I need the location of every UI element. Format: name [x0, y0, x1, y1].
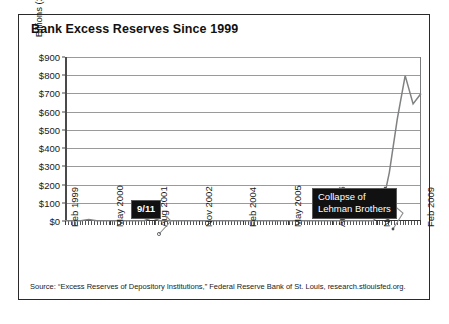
x-axis-minor-tick: [269, 221, 270, 225]
y-axis-tick-mark: [62, 166, 65, 167]
x-axis-minor-tick: [324, 221, 325, 225]
x-axis-minor-tick: [88, 221, 89, 225]
x-axis-minor-tick: [272, 221, 273, 225]
x-axis-minor-tick: [327, 221, 328, 225]
x-axis-minor-tick: [260, 221, 261, 225]
x-axis-minor-tick: [190, 221, 191, 225]
y-axis-tick-label: $500: [39, 124, 60, 135]
x-axis-minor-tick: [417, 221, 418, 225]
x-axis-minor-tick: [368, 221, 369, 225]
y-axis-tick-mark: [62, 202, 65, 203]
x-axis-minor-tick: [82, 221, 83, 225]
x-axis-minor-tick: [263, 221, 264, 225]
x-axis-tick-mark: [65, 221, 66, 225]
x-axis-minor-tick: [240, 221, 241, 225]
x-axis-minor-tick: [350, 221, 351, 225]
x-axis-minor-tick: [94, 221, 95, 225]
annotation-911: 9/11: [131, 200, 161, 219]
x-axis-minor-tick: [283, 221, 284, 225]
x-axis-minor-tick: [132, 221, 133, 225]
x-axis-minor-tick: [347, 221, 348, 225]
x-axis-minor-tick: [187, 221, 188, 225]
x-axis-minor-tick: [394, 221, 395, 225]
y-axis-tick-mark: [62, 129, 65, 130]
x-axis-tick-mark: [199, 221, 200, 225]
x-axis-minor-tick: [400, 221, 401, 225]
x-axis-tick-mark: [110, 221, 111, 225]
x-axis-minor-tick: [275, 221, 276, 225]
y-axis-tick-mark: [62, 57, 65, 58]
x-axis-minor-tick: [219, 221, 220, 225]
y-axis-tick-label: $0: [49, 216, 60, 227]
x-axis-minor-tick: [173, 221, 174, 225]
x-axis-tick-mark: [377, 221, 378, 225]
x-axis-minor-tick: [234, 221, 235, 225]
x-axis-minor-tick: [184, 221, 185, 225]
y-axis-tick-label: $100: [39, 197, 60, 208]
y-axis-tick-mark: [62, 111, 65, 112]
x-axis-minor-tick: [266, 221, 267, 225]
annotation-911-label: 9/11: [137, 203, 155, 214]
x-axis-minor-tick: [85, 221, 86, 225]
annotation-lehman-line1: Collapse of: [318, 191, 391, 203]
x-axis-minor-tick: [356, 221, 357, 225]
y-axis-tick-label: $600: [39, 106, 60, 117]
x-axis-tick-mark: [332, 221, 333, 225]
y-axis-tick-mark: [62, 75, 65, 76]
x-axis-minor-tick: [170, 221, 171, 225]
x-axis-tick-mark: [154, 221, 155, 225]
x-axis-minor-tick: [353, 221, 354, 225]
x-axis-tick-label: Feb 2004: [247, 187, 258, 227]
x-axis-minor-tick: [371, 221, 372, 225]
x-axis-minor-tick: [178, 221, 179, 225]
x-axis-minor-tick: [138, 221, 139, 225]
x-axis-minor-tick: [280, 221, 281, 225]
x-axis-tick-label: Feb 1999: [69, 187, 80, 227]
x-axis-minor-tick: [176, 221, 177, 225]
x-axis-minor-tick: [403, 221, 404, 225]
x-axis-minor-tick: [373, 221, 374, 225]
x-axis-minor-tick: [277, 221, 278, 225]
x-axis-minor-tick: [135, 221, 136, 225]
y-axis-tick-mark: [62, 148, 65, 149]
x-axis-minor-tick: [141, 221, 142, 225]
x-axis-minor-tick: [91, 221, 92, 225]
x-axis-minor-tick: [181, 221, 182, 225]
x-axis-minor-tick: [304, 221, 305, 225]
x-axis-minor-tick: [330, 221, 331, 225]
x-axis-minor-tick: [405, 221, 406, 225]
x-axis-minor-tick: [228, 221, 229, 225]
x-axis-minor-tick: [144, 221, 145, 225]
x-axis-minor-tick: [103, 221, 104, 225]
x-axis-minor-tick: [408, 221, 409, 225]
x-axis-tick-label: May 2005: [292, 185, 303, 227]
x-axis-minor-tick: [307, 221, 308, 225]
annotation-lehman-line2: Lehman Brothers: [318, 203, 391, 215]
x-axis-tick-label: Nov 2002: [203, 186, 214, 227]
chart-figure: Bank Excess Reserves Since 1999 Billions…: [18, 14, 430, 300]
x-axis-minor-tick: [112, 221, 113, 225]
x-axis-minor-tick: [237, 221, 238, 225]
y-axis-tick-label: $300: [39, 161, 60, 172]
chart-title: Bank Excess Reserves Since 1999: [31, 22, 238, 36]
x-axis-minor-tick: [149, 221, 150, 225]
x-axis-tick-mark: [288, 221, 289, 225]
x-axis-minor-tick: [196, 221, 197, 225]
x-axis-minor-tick: [231, 221, 232, 225]
x-axis-minor-tick: [222, 221, 223, 225]
leader-endpoint-lehman: [392, 228, 395, 231]
x-axis-minor-tick: [146, 221, 147, 225]
leader-endpoint-911: [157, 232, 160, 235]
x-axis-minor-tick: [397, 221, 398, 225]
x-axis-minor-tick: [155, 221, 156, 225]
x-axis-minor-tick: [129, 221, 130, 225]
y-axis-tick-label: $700: [39, 88, 60, 99]
y-axis-tick-label: $900: [39, 52, 60, 63]
x-axis-minor-tick: [97, 221, 98, 225]
x-axis-minor-tick: [312, 221, 313, 225]
y-axis-tick-mark: [62, 184, 65, 185]
x-axis-minor-tick: [362, 221, 363, 225]
x-axis-minor-tick: [106, 221, 107, 225]
x-axis-tick-label: May 2000: [114, 185, 125, 227]
x-axis-minor-tick: [318, 221, 319, 225]
